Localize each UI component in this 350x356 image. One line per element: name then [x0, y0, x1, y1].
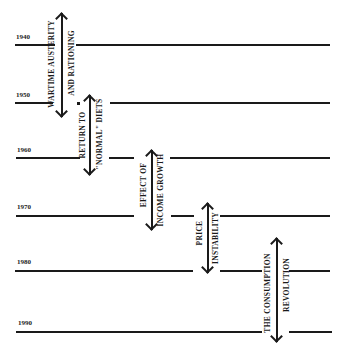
timeline-1970-segment [16, 215, 134, 217]
year-label-1940: 1940 [16, 33, 30, 41]
year-label-1960: 1960 [17, 146, 31, 154]
period-label-price-2: INSTABILITY [211, 208, 220, 268]
period-label-price: PRICE [195, 208, 204, 258]
timeline-1990-segment [289, 331, 332, 333]
period-label-wartime: WARTIME AUSTERITY [47, 14, 56, 114]
period-label-line2: "NORMAL" DIETS [95, 94, 104, 174]
timeline-1980-segment [15, 270, 193, 272]
period-label-line1: RETURN TO [78, 100, 87, 170]
period-label-line2: REVOLUTION [282, 245, 291, 325]
timeline-1960-segment [16, 157, 80, 159]
timeline-1960-segment [170, 157, 330, 159]
period-label-line2: INCOME GROWTH [156, 150, 165, 230]
period-label-return: RETURN TO [78, 100, 87, 170]
period-label-line2: INSTABILITY [211, 208, 220, 268]
timeline-1950-segment [110, 102, 330, 104]
double-arrow-icon [207, 203, 209, 273]
timeline-1970-segment [220, 215, 330, 217]
period-label-line1: PRICE [195, 208, 204, 258]
timeline-1970-segment [171, 215, 194, 217]
timeline-1990-segment [16, 331, 262, 333]
period-label-income: EFFECT OF [139, 155, 148, 215]
timeline-1980-segment [289, 270, 330, 272]
period-label-line1: WARTIME AUSTERITY [47, 14, 56, 114]
period-label-consumption: THE CONSUMPTION [263, 243, 272, 343]
timeline-1980-segment [220, 270, 262, 272]
double-arrow-icon [89, 95, 91, 175]
double-arrow-icon [61, 13, 63, 117]
period-label-line2: AND RATIONING [67, 18, 76, 108]
period-label-income-2: INCOME GROWTH [156, 150, 165, 230]
period-label-consumption-2: REVOLUTION [282, 245, 291, 325]
year-label-1970: 1970 [17, 203, 31, 211]
year-label-1990: 1990 [18, 319, 32, 327]
timeline-1940-segment [76, 44, 330, 46]
period-label-line1: THE CONSUMPTION [263, 243, 272, 343]
period-label-line1: EFFECT OF [139, 155, 148, 215]
period-label-return-2: "NORMAL" DIETS [95, 94, 104, 174]
double-arrow-icon [151, 150, 153, 230]
year-label-1950: 1950 [16, 91, 30, 99]
year-label-1980: 1980 [17, 258, 31, 266]
period-label-wartime-2: AND RATIONING [67, 18, 76, 108]
timeline-1960-segment [109, 157, 134, 159]
double-arrow-icon [276, 238, 278, 342]
